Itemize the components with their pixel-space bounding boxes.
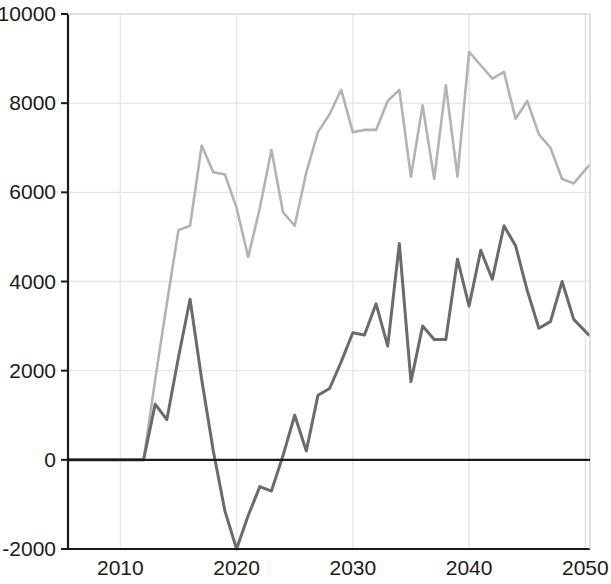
x-tick-label: 2020 <box>213 556 260 579</box>
x-tick-label: 2030 <box>329 556 376 579</box>
y-tick-label: 8000 <box>9 91 56 114</box>
chart-container: 1000080006000400020000-2000 201020202030… <box>0 0 611 584</box>
line-chart: 1000080006000400020000-2000 201020202030… <box>0 0 611 584</box>
y-tick-label: 4000 <box>9 270 56 293</box>
x-tick-label: 2010 <box>97 556 144 579</box>
y-tick-label: 10000 <box>0 2 56 25</box>
y-tick-label: -2000 <box>2 537 56 560</box>
x-axis-tick-labels: 20102020203020402050 <box>97 556 609 579</box>
x-tick-label: 2040 <box>446 556 493 579</box>
y-tick-label: 0 <box>44 448 56 471</box>
x-tick-label: 2050 <box>562 556 609 579</box>
y-tick-label: 6000 <box>9 180 56 203</box>
y-axis-tick-labels: 1000080006000400020000-2000 <box>0 2 56 560</box>
y-tick-label: 2000 <box>9 359 56 382</box>
